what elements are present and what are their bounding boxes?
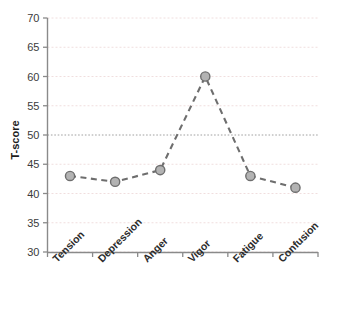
chart-container: 303540455055606570 TensionDepressionAnge… xyxy=(0,0,337,318)
line-chart: 303540455055606570 TensionDepressionAnge… xyxy=(0,0,337,318)
y-axis-tick-label: 55 xyxy=(27,100,39,112)
data-point-fatigue[interactable] xyxy=(246,171,255,180)
y-axis-tick-label: 70 xyxy=(27,12,39,24)
data-point-vigor[interactable] xyxy=(201,72,210,81)
y-axis-tick-labels: 303540455055606570 xyxy=(27,12,39,258)
data-point-anger[interactable] xyxy=(156,166,165,175)
y-axis-tick-label: 30 xyxy=(27,246,39,258)
y-axis-tick-label: 35 xyxy=(27,217,39,229)
data-point-depression[interactable] xyxy=(111,177,120,186)
y-axis-title: T-score xyxy=(9,120,21,159)
data-point-tension[interactable] xyxy=(65,171,74,180)
y-axis-tick-label: 60 xyxy=(27,71,39,83)
y-axis-tick-label: 45 xyxy=(27,158,39,170)
y-axis-tick-label: 65 xyxy=(27,41,39,53)
y-axis-tick-label: 50 xyxy=(27,129,39,141)
data-point-confusion[interactable] xyxy=(291,183,300,192)
y-axis-tick-label: 40 xyxy=(27,188,39,200)
